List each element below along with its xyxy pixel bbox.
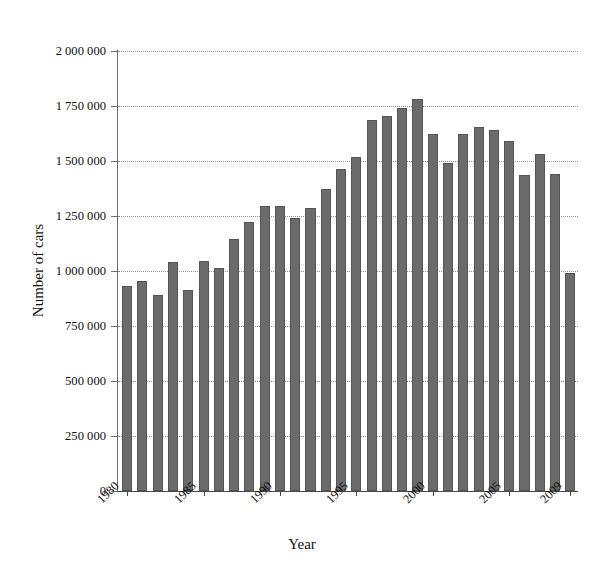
x-tick-mark — [127, 491, 128, 496]
bar — [168, 262, 178, 491]
y-tick-label: 250 000 — [65, 430, 106, 443]
bars-layer — [118, 51, 578, 491]
bar — [336, 169, 346, 491]
y-axis-tick-labels: 0250 000500 000750 0001 000 0001 250 000… — [0, 0, 106, 563]
y-tick-mark — [111, 51, 118, 52]
bar — [199, 261, 209, 491]
y-tick-label: 1 500 000 — [56, 155, 106, 168]
y-tick-mark — [111, 106, 118, 107]
bar — [351, 157, 361, 491]
y-tick-label: 1 750 000 — [56, 100, 106, 113]
bar — [290, 218, 300, 491]
bar — [565, 273, 575, 491]
bar — [519, 175, 529, 491]
bar — [122, 286, 132, 491]
x-tick-mark — [570, 491, 571, 496]
y-tick-mark — [111, 216, 118, 217]
bar — [428, 134, 438, 492]
bar — [153, 295, 163, 491]
y-tick-label: 1 000 000 — [56, 265, 106, 278]
x-tick-mark — [280, 491, 281, 496]
bar — [397, 108, 407, 491]
y-tick-label: 2 000 000 — [56, 45, 106, 58]
x-tick-mark — [204, 491, 205, 496]
bar — [550, 174, 560, 491]
x-tick-mark — [433, 491, 434, 496]
x-tick-mark — [509, 491, 510, 496]
bar — [137, 281, 147, 491]
y-tick-mark — [111, 436, 118, 437]
bar — [367, 120, 377, 491]
bar — [260, 206, 270, 491]
bar — [412, 99, 422, 491]
bar — [458, 134, 468, 492]
y-tick-label: 1 250 000 — [56, 210, 106, 223]
y-tick-mark — [111, 381, 118, 382]
bar — [183, 290, 193, 491]
y-tick-mark — [111, 326, 118, 327]
bar — [305, 208, 315, 491]
bar — [275, 206, 285, 491]
bar — [489, 130, 499, 491]
x-axis-title: Year — [0, 536, 604, 553]
bar — [214, 268, 224, 491]
bar — [321, 189, 331, 492]
plot-area — [118, 51, 578, 491]
bar — [474, 127, 484, 491]
bar — [443, 163, 453, 491]
bar — [535, 154, 545, 491]
y-tick-mark — [111, 161, 118, 162]
y-tick-label: 750 000 — [65, 320, 106, 333]
bar — [244, 222, 254, 492]
y-axis-title: Number of cars — [30, 224, 47, 317]
bar — [382, 116, 392, 491]
x-tick-mark — [356, 491, 357, 496]
bar-chart: 0250 000500 000750 0001 000 0001 250 000… — [0, 0, 604, 563]
y-tick-label: 500 000 — [65, 375, 106, 388]
bar — [504, 141, 514, 491]
bar — [229, 239, 239, 491]
y-tick-mark — [111, 271, 118, 272]
